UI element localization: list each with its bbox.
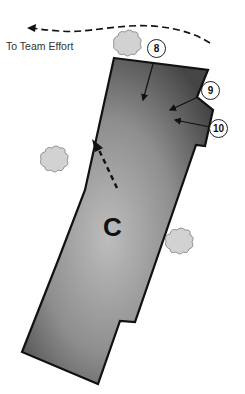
bush-icon: [41, 146, 69, 172]
callout-10: 10: [209, 119, 228, 138]
bush-icon: [166, 228, 194, 254]
bush-icon: [114, 30, 142, 56]
direction-label: To Team Effort: [6, 40, 73, 52]
zone-label: C: [103, 212, 122, 243]
callout-9: 9: [201, 81, 220, 100]
callout-8: 8: [147, 39, 166, 58]
diagram-canvas: [0, 0, 245, 394]
